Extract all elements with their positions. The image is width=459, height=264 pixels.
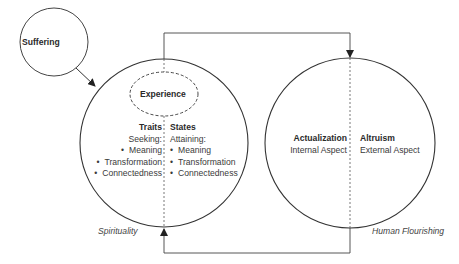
- suffering-to-spirituality-arrow: [76, 68, 95, 86]
- actualization-title: Actualization: [290, 133, 347, 145]
- flourishing-to-spirituality-arrow: [164, 228, 350, 253]
- traits-item: Connectedness: [94, 168, 162, 180]
- traits-subtitle: Seeking:: [94, 134, 162, 146]
- states-item: Connectedness: [170, 168, 238, 180]
- traits-item: Meaning: [94, 145, 162, 157]
- spirituality-to-flourishing-arrow: [164, 33, 350, 59]
- experience-label: Experience: [140, 89, 186, 101]
- altruism-subtitle: External Aspect: [360, 145, 420, 157]
- states-title: States: [170, 122, 238, 134]
- traits-list: Meaning Transformation Connectedness: [94, 145, 162, 180]
- states-item: Meaning: [170, 145, 238, 157]
- states-block: States Attaining: Meaning Transformation…: [170, 122, 238, 180]
- traits-title: Traits: [94, 122, 162, 134]
- altruism-title: Altruism: [360, 133, 420, 145]
- states-list: Meaning Transformation Connectedness: [170, 145, 238, 180]
- human-flourishing-label: Human Flourishing: [372, 226, 444, 238]
- altruism-block: Altruism External Aspect: [360, 133, 420, 156]
- traits-item: Transformation: [94, 157, 162, 169]
- actualization-subtitle: Internal Aspect: [290, 145, 347, 157]
- actualization-block: Actualization Internal Aspect: [290, 133, 347, 156]
- spirituality-label: Spirituality: [98, 226, 138, 238]
- states-item: Transformation: [170, 157, 238, 169]
- traits-block: Traits Seeking: Meaning Transformation C…: [94, 122, 162, 180]
- suffering-label: Suffering: [22, 37, 60, 49]
- states-subtitle: Attaining:: [170, 134, 238, 146]
